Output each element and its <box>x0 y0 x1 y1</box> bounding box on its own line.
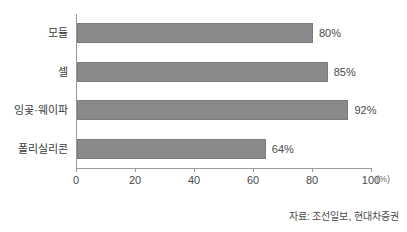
bar-row: 64% <box>77 130 372 169</box>
bar-row: 80% <box>77 14 372 53</box>
x-axis-tick-label: 0 <box>73 174 79 186</box>
x-axis-tick-label: 60 <box>247 174 259 186</box>
x-axis-tick <box>253 168 254 172</box>
x-axis-tick-label: 40 <box>188 174 200 186</box>
category-axis-label: 모듈 <box>48 14 68 53</box>
source-note: 자료: 조선일보, 현대차증권 <box>289 208 399 223</box>
bar-value-label: 85% <box>328 62 356 82</box>
x-axis-tick <box>371 168 372 172</box>
x-axis-tick <box>194 168 195 172</box>
bar-chart-figure: 80%85%92%64% 020406080100 모듈셀잉곷·웨이파폴리실리콘… <box>0 0 407 232</box>
bar-row: 92% <box>77 91 372 130</box>
category-axis-label: 셀 <box>58 53 68 92</box>
bar-value-label: 80% <box>313 23 341 43</box>
bar <box>77 23 313 43</box>
bar <box>77 139 266 159</box>
x-axis-tick <box>76 168 77 172</box>
plot-area: 80%85%92%64% 020406080100 <box>76 14 371 168</box>
bar-row: 85% <box>77 53 372 92</box>
bar <box>77 100 348 120</box>
category-axis-label: 폴리실리콘 <box>18 130 68 169</box>
bar-value-label: 64% <box>266 139 294 159</box>
category-axis-label: 잉곷·웨이파 <box>14 91 68 130</box>
bar <box>77 62 328 82</box>
value-axis-line <box>76 168 372 169</box>
x-axis-tick <box>135 168 136 172</box>
x-axis-tick-label: 20 <box>129 174 141 186</box>
x-axis-tick-label: 80 <box>306 174 318 186</box>
bar-value-label: 92% <box>348 100 376 120</box>
x-axis-tick <box>312 168 313 172</box>
x-axis-unit-label: (%) <box>376 174 390 184</box>
